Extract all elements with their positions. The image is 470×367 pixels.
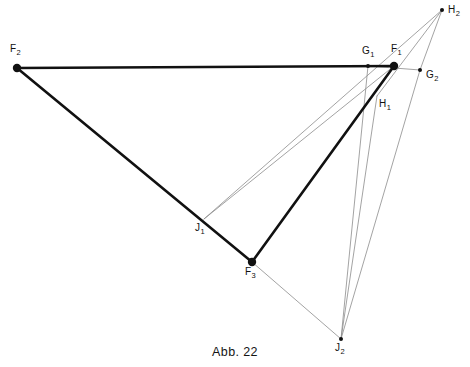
point-label-G1: G1 [362, 46, 374, 56]
point-label-H1: H1 [379, 99, 391, 109]
figure-container: F2G1F1G2H2H1J1F3J2 Abb. 22 [0, 0, 470, 367]
thin-segment-G2-H2 [420, 10, 442, 70]
vertex-dot-H2 [440, 8, 444, 12]
point-label-G2: G2 [426, 70, 438, 80]
thick-segment-F2-F3 [17, 68, 252, 262]
thin-segment-J1-H2 [204, 10, 442, 219]
vertex-dot-G2 [418, 68, 422, 72]
point-label-subscript-H2: 2 [455, 9, 460, 18]
point-label-J1: J1 [195, 223, 205, 233]
point-label-F2: F2 [10, 44, 21, 54]
point-label-subscript-F1: 1 [397, 48, 402, 57]
thick-lines-group [17, 66, 394, 262]
thin-lines-group [204, 10, 442, 339]
thick-segment-F3-F1 [252, 66, 394, 262]
point-label-subscript-G1: 1 [370, 50, 375, 59]
vertex-dot-G1 [366, 64, 370, 68]
point-label-subscript-J1: 1 [200, 227, 205, 236]
point-label-base-G2: G [426, 69, 434, 80]
vertex-dot-J2 [339, 337, 343, 341]
thin-segment-H1-H2 [377, 10, 442, 96]
vertex-dot-F1 [390, 62, 398, 70]
vertex-dot-F2 [13, 64, 21, 72]
point-label-H2: H2 [448, 5, 460, 15]
thin-segment-F3-J2 [252, 262, 341, 339]
point-label-subscript-F3: 3 [251, 271, 256, 280]
point-label-subscript-F2: 2 [16, 48, 21, 57]
vertex-dot-F3 [248, 258, 256, 266]
point-label-F1: F1 [391, 44, 402, 54]
vertex-dots-group [13, 8, 444, 341]
point-label-subscript-G2: 2 [434, 74, 439, 83]
point-label-base-G1: G [362, 45, 370, 56]
point-label-F3: F3 [245, 267, 256, 277]
thick-segment-F2-F1 [17, 66, 394, 68]
thin-segment-G2-J2 [341, 70, 420, 339]
figure-caption: Abb. 22 [0, 345, 470, 359]
point-label-subscript-H1: 1 [386, 103, 391, 112]
